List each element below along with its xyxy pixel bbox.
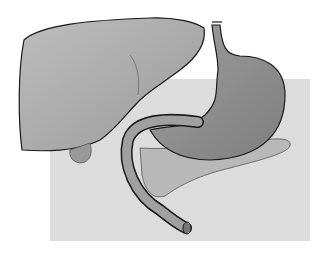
anatomy-illustration bbox=[0, 0, 319, 253]
illustration-svg bbox=[0, 0, 319, 253]
duodenum-end bbox=[183, 222, 191, 234]
